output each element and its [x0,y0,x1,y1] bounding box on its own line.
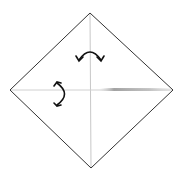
crease-shadow [100,88,170,91]
origami-diagram [0,0,183,180]
